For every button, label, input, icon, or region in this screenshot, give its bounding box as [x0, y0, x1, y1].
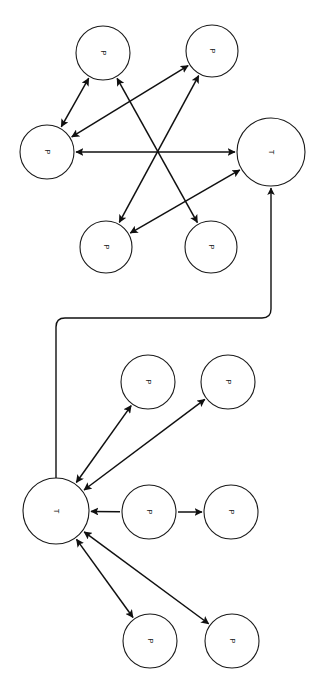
node-b_p4[interactable]: P	[204, 485, 258, 539]
edge-f6	[84, 532, 209, 624]
petri-net-graph: PPPTPPTPPPPPP	[0, 0, 318, 681]
edge-f1	[76, 406, 131, 483]
node-b_p6[interactable]: P	[205, 614, 259, 668]
diagram-canvas: PPPTPPTPPPPPP	[0, 0, 318, 681]
node-label: P	[145, 509, 154, 514]
node-label: P	[43, 149, 52, 154]
node-b_p1[interactable]: P	[121, 355, 175, 409]
node-b_t1[interactable]: T	[23, 478, 89, 544]
node-b_p2[interactable]: P	[201, 355, 255, 409]
node-t_p4[interactable]: P	[80, 221, 132, 273]
node-label: P	[99, 50, 108, 55]
node-label: T	[52, 509, 61, 514]
node-label: P	[208, 48, 217, 53]
edges-layer	[61, 66, 240, 624]
edge-e1	[61, 78, 88, 127]
node-t_p1[interactable]: P	[76, 26, 130, 80]
node-t_p2[interactable]: P	[186, 25, 238, 77]
nodes-layer: PPPTPPTPPPPPP	[20, 25, 305, 668]
node-label: P	[224, 379, 233, 384]
node-b_p3[interactable]: P	[122, 485, 176, 539]
node-t_t1[interactable]: T	[237, 118, 305, 186]
node-label: P	[146, 638, 155, 643]
node-t_p3[interactable]: P	[20, 125, 74, 179]
node-label: P	[102, 244, 111, 249]
node-label: P	[227, 509, 236, 514]
edge-f5	[77, 539, 133, 617]
node-t_p5[interactable]: P	[185, 221, 237, 273]
node-label: T	[267, 150, 276, 155]
edge-f2	[84, 399, 205, 490]
node-label: P	[207, 244, 216, 249]
node-label: P	[228, 638, 237, 643]
node-b_p5[interactable]: P	[123, 614, 177, 668]
node-label: P	[144, 379, 153, 384]
